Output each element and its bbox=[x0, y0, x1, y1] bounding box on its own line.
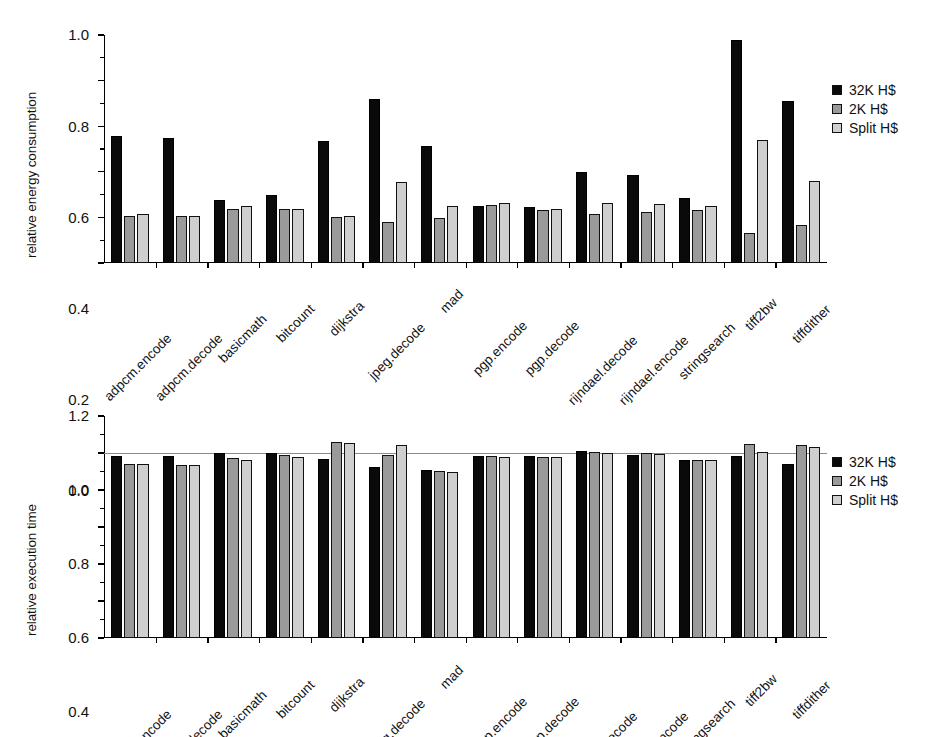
bar-adpcm-decode-SplitH bbox=[189, 465, 200, 638]
y-tick-label: 0.6 bbox=[68, 629, 89, 646]
bar-rijndael-decode-2KH bbox=[589, 214, 600, 263]
plot-axes-exectime: 0.00.20.40.60.81.01.2 bbox=[104, 416, 827, 638]
bar-adpcm-encode-SplitH bbox=[137, 214, 148, 263]
y-tick-minor bbox=[100, 508, 104, 509]
bar-group bbox=[266, 35, 304, 263]
bar-group bbox=[369, 416, 407, 638]
bar-group bbox=[627, 416, 665, 638]
y-tick-major: 0.0 bbox=[98, 262, 104, 263]
bar-adpcm-encode-2KH bbox=[124, 216, 135, 263]
bar-rijndael-encode-2KH bbox=[641, 212, 652, 263]
x-tick bbox=[156, 638, 157, 643]
x-tick bbox=[259, 263, 260, 268]
bar-pgp-decode-2KH bbox=[537, 210, 548, 263]
bar-group bbox=[214, 35, 252, 263]
bar-tiff2bw-SplitH bbox=[757, 452, 768, 638]
legend-swatch-icon bbox=[832, 457, 842, 467]
x-tick-label: tiffdither bbox=[789, 302, 833, 346]
y-tick-minor bbox=[100, 434, 104, 435]
y-tick-major: 0.8 bbox=[98, 80, 104, 81]
y-tick-major: 0.2 bbox=[98, 217, 104, 218]
chart-panel-energy: relative energy consumption 0.00.20.40.6… bbox=[0, 0, 947, 370]
x-tick bbox=[311, 263, 312, 268]
bar-group bbox=[111, 35, 149, 263]
x-tick bbox=[207, 638, 208, 643]
bar-basicmath-32KH bbox=[214, 453, 225, 638]
y-tick-major: 0.2 bbox=[98, 600, 104, 601]
bar-pgp-encode-32KH bbox=[473, 456, 484, 638]
bar-stringsearch-32KH bbox=[679, 460, 690, 638]
y-tick-minor bbox=[100, 471, 104, 472]
bar-bitcount-SplitH bbox=[292, 457, 303, 638]
chart-panel-exectime: relative execution time 0.00.20.40.60.81… bbox=[0, 368, 947, 737]
bar-adpcm-decode-2KH bbox=[176, 465, 187, 638]
bar-rijndael-encode-SplitH bbox=[654, 454, 665, 638]
x-tick-label: tiff2bw bbox=[741, 295, 779, 333]
plot-axes-energy: 0.00.20.40.60.81.0 bbox=[104, 35, 827, 263]
bar-group bbox=[473, 416, 511, 638]
x-tick-label: bitcount bbox=[273, 301, 317, 345]
bar-group bbox=[318, 35, 356, 263]
x-tick bbox=[207, 263, 208, 268]
bar-group bbox=[679, 416, 717, 638]
x-tick bbox=[775, 263, 776, 268]
y-tick-major: 1.0 bbox=[98, 34, 104, 35]
y-tick-minor bbox=[100, 545, 104, 546]
y-tick-major: 0.6 bbox=[98, 526, 104, 527]
bar-dijkstra-32KH bbox=[318, 141, 329, 263]
bar-group bbox=[731, 35, 769, 263]
bar-group bbox=[679, 35, 717, 263]
x-tick bbox=[672, 263, 673, 268]
bar-basicmath-SplitH bbox=[241, 460, 252, 638]
y-tick-major: 0.6 bbox=[98, 126, 104, 127]
bar-bitcount-32KH bbox=[266, 195, 277, 263]
x-tick-label: mad bbox=[437, 663, 466, 692]
y-tick-minor bbox=[100, 582, 104, 583]
bar-stringsearch-2KH bbox=[692, 460, 703, 638]
legend-label: 32K H$ bbox=[849, 455, 896, 469]
y-tick-minor bbox=[100, 148, 104, 149]
bar-tiffdither-2KH bbox=[796, 445, 807, 638]
bar-dijkstra-SplitH bbox=[344, 216, 355, 263]
x-tick bbox=[620, 638, 621, 643]
y-tick-minor bbox=[100, 240, 104, 241]
bar-stringsearch-SplitH bbox=[705, 460, 716, 638]
x-tick-label: tiff2bw bbox=[741, 671, 779, 709]
y-tick-label: 0.4 bbox=[68, 299, 89, 316]
x-tick-label: tiffdither bbox=[789, 678, 833, 722]
legend-item: 32K H$ bbox=[832, 80, 898, 99]
bar-rijndael-decode-SplitH bbox=[602, 453, 613, 638]
bar-adpcm-decode-32KH bbox=[163, 456, 174, 638]
bar-tiffdither-32KH bbox=[782, 464, 793, 638]
plot-area-energy bbox=[104, 35, 827, 263]
bar-pgp-decode-32KH bbox=[524, 207, 535, 263]
x-tick-label: dijkstra bbox=[327, 298, 368, 339]
bar-pgp-encode-32KH bbox=[473, 206, 484, 263]
bar-basicmath-2KH bbox=[227, 458, 238, 638]
y-tick-major: 1.2 bbox=[98, 415, 104, 416]
bar-rijndael-decode-SplitH bbox=[602, 203, 613, 263]
legend-item: 2K H$ bbox=[832, 471, 898, 490]
bar-adpcm-decode-2KH bbox=[176, 216, 187, 263]
bar-basicmath-SplitH bbox=[241, 206, 252, 263]
x-tick bbox=[466, 638, 467, 643]
y-tick-label: 0.8 bbox=[68, 555, 89, 572]
legend-label: 2K H$ bbox=[849, 474, 888, 488]
bar-bitcount-SplitH bbox=[292, 209, 303, 263]
y-tick-label: 1.0 bbox=[68, 26, 89, 43]
bar-rijndael-encode-32KH bbox=[627, 175, 638, 263]
bar-group bbox=[266, 416, 304, 638]
legend-swatch-icon bbox=[832, 85, 842, 95]
bar-dijkstra-SplitH bbox=[344, 443, 355, 638]
bar-group bbox=[576, 35, 614, 263]
x-tick bbox=[569, 638, 570, 643]
x-tick bbox=[724, 263, 725, 268]
bar-rijndael-encode-2KH bbox=[641, 453, 652, 638]
figure-root: relative energy consumption 0.00.20.40.6… bbox=[0, 0, 947, 737]
x-tick bbox=[724, 638, 725, 643]
bar-pgp-decode-32KH bbox=[524, 456, 535, 638]
bar-jpeg-decode-2KH bbox=[382, 455, 393, 638]
bar-group bbox=[214, 416, 252, 638]
x-tick-label: jpeg.decode bbox=[366, 696, 429, 737]
bar-mad-2KH bbox=[434, 218, 445, 263]
